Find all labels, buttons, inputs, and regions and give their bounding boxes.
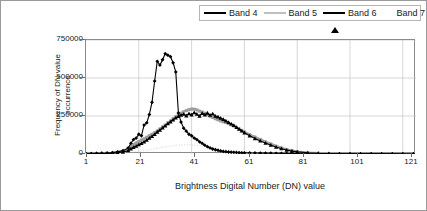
x-tick-mark-21 xyxy=(140,153,141,157)
x-axis-title: Brightness Digital Number (DN) value xyxy=(85,181,415,191)
x-tick-label-121: 121 xyxy=(396,158,426,166)
x-tick-mark-121 xyxy=(411,153,412,157)
x-tick-mark-101 xyxy=(357,153,358,157)
x-tick-label-21: 21 xyxy=(125,158,155,166)
x-tick-label-1: 1 xyxy=(71,158,101,166)
chart-container: Band 4 Band 5 Band 6 Band 7 Frequency of… xyxy=(0,0,427,211)
x-tick-label-61: 61 xyxy=(234,158,264,166)
x-axis-ticks: 1 21 41 61 81 101 121 xyxy=(1,1,427,211)
x-tick-mark-41 xyxy=(194,153,195,157)
x-tick-mark-81 xyxy=(303,153,304,157)
x-tick-label-81: 81 xyxy=(288,158,318,166)
x-tick-mark-1 xyxy=(86,153,87,157)
x-tick-mark-61 xyxy=(249,153,250,157)
x-tick-label-101: 101 xyxy=(342,158,372,166)
x-tick-label-41: 41 xyxy=(179,158,209,166)
